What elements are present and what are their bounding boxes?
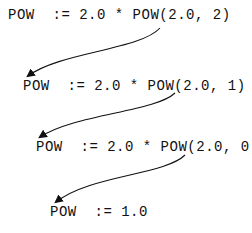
arrow-call-1	[28, 28, 160, 76]
arrow-call-2	[40, 93, 175, 137]
call-arrows	[0, 0, 252, 233]
arrow-call-3	[56, 155, 185, 202]
